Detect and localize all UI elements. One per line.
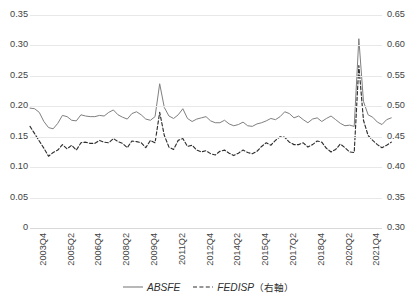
gridline: [30, 167, 382, 168]
y-axis-left-tick-label: 0: [23, 223, 28, 232]
legend-item-fedisp: FEDISP（右軸）: [193, 280, 294, 294]
y-axis-right-tick-label: 0.60: [387, 40, 405, 49]
y-axis-left-tick-label: 0.05: [10, 193, 28, 202]
x-axis-tick-label: 2021Q4: [372, 233, 381, 266]
legend-label-absfe: ABSFE: [147, 282, 180, 293]
y-axis-right-tick-label: 0.65: [387, 10, 405, 19]
y-axis-right-tick-label: 0.45: [387, 132, 405, 141]
y-axis-right-tick-label: 0.40: [387, 162, 405, 171]
legend-swatch-dashed-icon: [193, 283, 213, 291]
legend-item-absfe: ABSFE: [123, 282, 180, 293]
gridline: [30, 198, 382, 199]
gridline: [30, 137, 382, 138]
y-axis-left-tick-label: 0.15: [10, 132, 28, 141]
x-axis-tick-label: 2017Q2: [289, 233, 298, 266]
chart-container: 0.350.300.250.200.150.100.050 0.650.600.…: [0, 0, 417, 297]
gridline: [30, 106, 382, 107]
legend-swatch-solid-icon: [123, 283, 143, 291]
y-axis-right-tick-label: 0.30: [387, 223, 405, 232]
y-axis-left-tick-label: 0.35: [10, 10, 28, 19]
x-axis-tick-label: 2006Q4: [94, 233, 103, 266]
y-axis-left-tick-label: 0.10: [10, 162, 28, 171]
series-line-fedisp: [30, 66, 391, 157]
plot-area: [30, 15, 382, 228]
x-axis-tick-label: 2018Q4: [317, 233, 326, 266]
gridline: [30, 15, 382, 16]
x-axis-tick-label: 2003Q4: [39, 233, 48, 266]
x-axis-tick-label: 2009Q4: [150, 233, 159, 266]
x-axis-tick-label: 2014Q2: [233, 233, 242, 266]
data-series-layer: [30, 15, 382, 228]
y-axis-left-tick-label: 0.30: [10, 40, 28, 49]
legend-label-fedisp-text: FEDISP: [217, 282, 254, 293]
y-axis-left-tick-label: 0.20: [10, 101, 28, 110]
y-axis-right-tick-label: 0.55: [387, 71, 405, 80]
x-axis-tick-label: 2011Q2: [178, 233, 187, 265]
y-axis-left-tick-label: 0.25: [10, 71, 28, 80]
gridline: [30, 76, 382, 77]
gridline: [30, 45, 382, 46]
x-axis-tick-label: 2020Q2: [345, 233, 354, 266]
x-axis-tick-label: 2015Q4: [261, 233, 270, 266]
series-line-absfe: [30, 39, 391, 129]
y-axis-right-tick-label: 0.50: [387, 101, 405, 110]
legend-label-fedisp: FEDISP（右軸）: [217, 280, 294, 294]
chart-legend: ABSFE FEDISP（右軸）: [0, 280, 417, 294]
y-axis-right-tick-label: 0.35: [387, 193, 405, 202]
legend-label-fedisp-suffix: （右軸）: [254, 282, 294, 293]
x-axis-tick-label: 2008Q2: [122, 233, 131, 266]
gridline: [30, 228, 382, 229]
x-axis-tick-label: 2005Q2: [67, 233, 76, 266]
x-axis-tick-label: 2012Q4: [206, 233, 215, 266]
